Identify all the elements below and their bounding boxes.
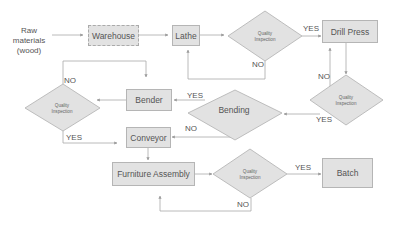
- node-furniture-assembly[interactable]: Furniture Assembly: [112, 162, 195, 186]
- node-bender[interactable]: Bender: [126, 89, 172, 111]
- raw-materials-label: Raw materials (wood): [10, 26, 48, 56]
- edge-label-bending-no: NO: [185, 124, 197, 133]
- edge-label-qi-bender-no: NO: [64, 76, 76, 85]
- edge-label-qi-drill-yes: YES: [316, 115, 332, 124]
- node-conveyor[interactable]: Conveyor: [126, 127, 171, 148]
- decision-bending[interactable]: Bending: [218, 105, 249, 115]
- node-drill-press[interactable]: Drill Press: [322, 20, 378, 43]
- decision-qi-drill[interactable]: Quality Inspection: [336, 95, 357, 106]
- decision-qi-bender[interactable]: Quality Inspection: [52, 103, 73, 114]
- edge-label-bending-yes: YES: [187, 91, 203, 100]
- edge-label-qi-assembly-no: NO: [237, 200, 249, 209]
- edge-label-qi-lathe-yes: YES: [303, 24, 319, 33]
- node-lathe[interactable]: Lathe: [172, 25, 200, 46]
- edge-label-qi-bender-yes: YES: [66, 133, 82, 142]
- node-warehouse[interactable]: Warehouse: [88, 25, 139, 46]
- edge-label-qi-lathe-no: NO: [252, 60, 264, 69]
- decision-qi-assembly[interactable]: Quality Inspection: [240, 169, 261, 180]
- decision-qi-lathe[interactable]: Quality Inspection: [255, 31, 276, 42]
- node-batch[interactable]: Batch: [322, 158, 373, 188]
- edge-label-qi-drill-no: NO: [318, 72, 330, 81]
- edge-label-qi-assembly-yes: YES: [295, 163, 311, 172]
